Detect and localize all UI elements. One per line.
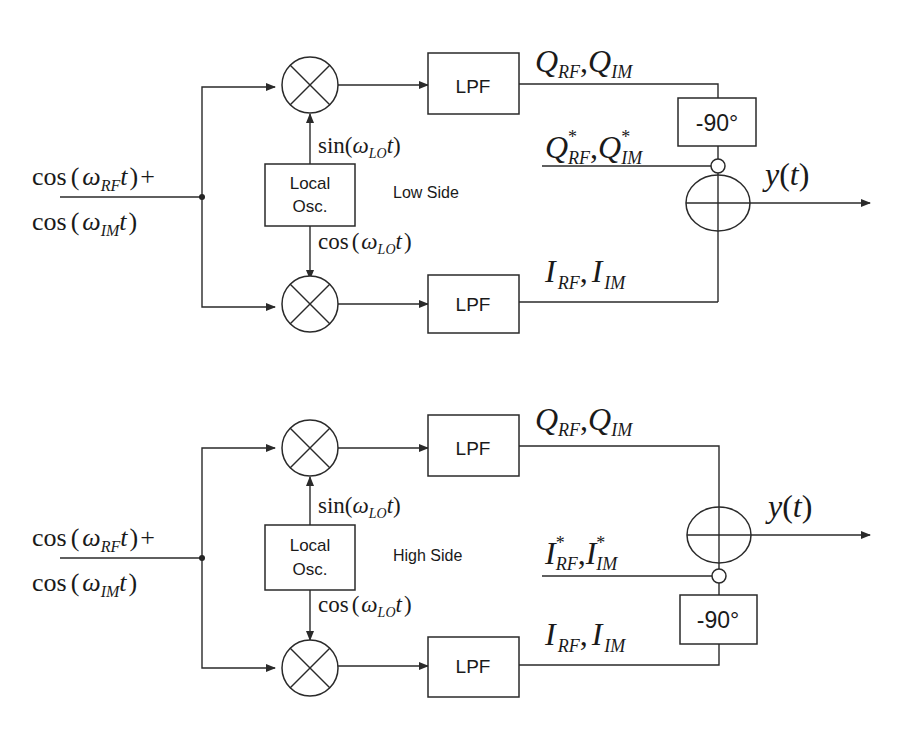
i-label: IRF,IIM	[544, 616, 626, 656]
mode-label: Low Side	[393, 184, 459, 201]
q-label: QRF,QIM	[535, 43, 633, 82]
lpf-label: LPF	[456, 76, 491, 97]
input-label-im: cos(ωIMt)	[32, 568, 137, 600]
mixer-icon	[282, 57, 338, 113]
conj-label: Q*RF,Q*IM	[545, 127, 643, 168]
lpf-label: LPF	[456, 294, 491, 315]
input-label-im: cos(ωIMt)	[32, 207, 137, 239]
node-circle	[711, 159, 725, 173]
mixer-icon	[282, 420, 338, 476]
mode-label: High Side	[393, 547, 462, 564]
phase-shift-label: -90°	[697, 607, 739, 633]
image-reject-mixer-diagram: cos(ωRFt)+ cos(ωIMt) LPF QRF,QIM -90° Q*…	[0, 0, 913, 735]
local-oscillator-block	[265, 525, 355, 590]
phase-shift-label: -90°	[696, 110, 738, 136]
wire-q-path	[519, 446, 719, 507]
input-label-rf: cos(ωRFt)+	[32, 523, 155, 555]
lpf-label: LPF	[456, 656, 491, 677]
node-circle	[712, 569, 726, 583]
low-side-diagram: cos(ωRFt)+ cos(ωIMt) LPF QRF,QIM -90° Q*…	[32, 43, 870, 333]
q-label: QRF,QIM	[535, 401, 633, 440]
lpf-label: LPF	[456, 438, 491, 459]
lo-label-line1: Local	[290, 174, 331, 193]
lo-sin-label: sin(ωLOt)	[318, 493, 401, 521]
summer-icon	[687, 507, 751, 563]
lo-sin-label: sin(ωLOt)	[318, 133, 401, 161]
conj-label: I*RF,I*IM	[544, 533, 618, 574]
wire-q-path	[519, 84, 718, 98]
lo-label-line2: Osc.	[293, 197, 328, 216]
i-label: IRF,IIM	[544, 253, 626, 293]
output-label: y(t)	[762, 156, 809, 192]
wire-to-top-mixer	[202, 448, 275, 558]
wire-to-bottom-mixer	[202, 558, 275, 668]
high-side-diagram: cos(ωRFt)+ cos(ωIMt) LPF QRF,QIM y(t)	[32, 401, 870, 697]
mixer-icon	[282, 640, 338, 696]
wire-to-bottom-mixer	[202, 197, 275, 307]
summer-icon	[686, 175, 750, 231]
lo-cos-label: cos(ωLOt)	[318, 229, 412, 257]
wire-to-top-mixer	[202, 87, 275, 197]
mixer-icon	[282, 276, 338, 332]
output-label: y(t)	[765, 488, 812, 524]
lo-label-line2: Osc.	[293, 560, 328, 579]
lo-cos-label: cos(ωLOt)	[318, 592, 412, 620]
lo-label-line1: Local	[290, 536, 331, 555]
input-label-rf: cos(ωRFt)+	[32, 162, 155, 194]
